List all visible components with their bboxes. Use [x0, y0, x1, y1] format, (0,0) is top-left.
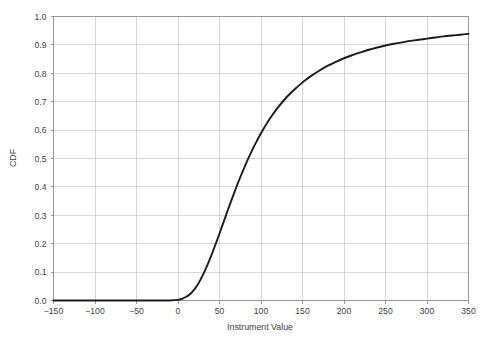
y-tick-label: 0.1 [35, 267, 47, 277]
x-tick-label: 0 [176, 306, 181, 316]
y-tick-label: 1.0 [35, 12, 47, 22]
x-tick-label: 200 [337, 306, 352, 316]
x-axis-title: Instrument Value [227, 322, 293, 332]
y-tick-label: 0.7 [35, 97, 47, 107]
y-tick-label: 0.6 [35, 125, 47, 135]
x-tick-label: −50 [129, 306, 144, 316]
y-tick-label: 0.4 [35, 182, 47, 192]
x-tick-label: −150 [44, 306, 64, 316]
y-tick-label: 0.2 [35, 239, 47, 249]
y-tick-label: 0.5 [35, 154, 47, 164]
x-tick-label: 250 [378, 306, 393, 316]
y-tick-label: 0.8 [35, 69, 47, 79]
x-tick-label: 350 [461, 306, 476, 316]
figure-background [0, 0, 488, 346]
chart-figure: −150−100−50050100150200250300350 0.00.10… [0, 0, 488, 346]
y-axis-title: CDF [8, 148, 18, 167]
x-tick-label: 150 [295, 306, 310, 316]
x-tick-label: 300 [420, 306, 435, 316]
x-tick-label: 100 [254, 306, 269, 316]
cdf-line-chart: −150−100−50050100150200250300350 0.00.10… [0, 0, 488, 346]
x-tick-label: −100 [85, 306, 105, 316]
y-tick-label: 0.9 [35, 40, 47, 50]
y-tick-label: 0.3 [35, 211, 47, 221]
y-tick-label: 0.0 [35, 296, 47, 306]
x-tick-label: 50 [215, 306, 225, 316]
